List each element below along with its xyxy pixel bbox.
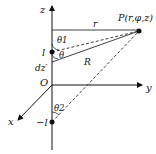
origin-label: O bbox=[40, 77, 48, 88]
charge-l bbox=[50, 50, 55, 55]
theta-arc bbox=[52, 55, 58, 59]
theta1-label: θ1 bbox=[57, 35, 68, 45]
element-dz-label: dz′ bbox=[35, 63, 48, 73]
R-label: R bbox=[83, 57, 91, 67]
diagram-canvas: z y x O P(r,φ,z) r R l dz′ −l θ1 θ θ2 bbox=[0, 0, 156, 154]
theta-label: θ bbox=[59, 50, 64, 60]
z-axis-label: z bbox=[39, 4, 46, 15]
y-axis-label: y bbox=[145, 82, 152, 93]
x-axis bbox=[18, 85, 52, 120]
charge-minus-l-label: −l bbox=[36, 117, 48, 128]
charge-minus-l bbox=[50, 120, 55, 125]
x-axis-label: x bbox=[8, 116, 14, 127]
theta2-label: θ2 bbox=[54, 103, 65, 113]
r-label: r bbox=[93, 19, 98, 29]
point-P bbox=[137, 29, 142, 34]
charge-l-label: l bbox=[42, 47, 45, 58]
point-P-label: P(r,φ,z) bbox=[117, 12, 153, 23]
